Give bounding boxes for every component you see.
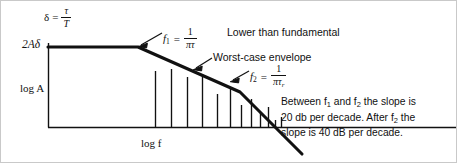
caption-line-3: slope is 40 dB per decade. — [281, 127, 403, 138]
fraction-numerator: τ — [62, 6, 70, 17]
f2-annotation: f2 = 1 πτr — [250, 64, 286, 89]
tau-over-T-fraction: τ T — [61, 6, 71, 29]
f1-denominator: πτ — [184, 38, 197, 50]
x-axis-label: log f — [141, 137, 161, 149]
fraction-denominator: T — [61, 17, 71, 29]
f1-numerator: 1 — [186, 27, 195, 38]
caption-line-2: 20 db per decade. After f2 the — [281, 112, 415, 123]
f1-symbol: f1 — [163, 32, 170, 46]
f1-equals: = — [174, 33, 180, 45]
f1-fraction: 1 πτ — [184, 27, 197, 50]
f2-numerator: 1 — [274, 64, 283, 75]
f1-annotation: f1 = 1 πτ — [163, 27, 197, 50]
f2-denominator: πτr — [271, 75, 286, 89]
f2-leader-arrow — [230, 71, 249, 83]
note-worst-case-envelope: Worst-case envelope — [213, 51, 311, 63]
figure-canvas: δ = τ T 2Aδ log A log f f1 = 1 πτ f2 = 1 — [0, 0, 458, 164]
slope-explanation-caption: Between f1 and f2 the slope is 20 db per… — [281, 96, 456, 140]
equals-sign: = — [52, 12, 58, 23]
f2-equals: = — [261, 71, 267, 83]
f1-leader-arrow — [139, 33, 163, 48]
delta-definition: δ = τ T — [44, 6, 71, 29]
y-axis-bottom-label: log A — [20, 82, 44, 94]
f2-symbol: f2 — [250, 70, 257, 84]
delta-symbol: δ — [44, 12, 49, 23]
note-lower-than-fundamental: Lower than fundamental — [227, 26, 340, 38]
caption-line-1: Between f1 and f2 the slope is — [281, 96, 416, 107]
envelope-leader-arrow — [193, 58, 212, 71]
f2-fraction: 1 πτr — [271, 64, 286, 89]
y-axis-top-label: 2Aδ — [22, 38, 40, 50]
